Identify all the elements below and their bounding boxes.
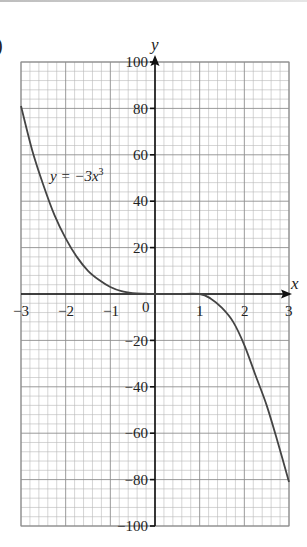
y-tick-label: −20 (125, 333, 148, 349)
y-tick-label: 60 (133, 147, 148, 163)
y-axis-name: y (149, 35, 159, 54)
x-tick-label: 3 (285, 303, 293, 319)
x-tick-label: 2 (241, 303, 249, 319)
y-tick-label: −60 (125, 425, 148, 441)
x-axis-name: x (290, 274, 299, 293)
y-tick-label: −40 (125, 379, 148, 395)
y-tick-label: −80 (125, 472, 148, 488)
x-tick-label: −3 (13, 303, 29, 319)
y-tick-label: 80 (133, 101, 148, 117)
x-tick-label: −2 (58, 303, 74, 319)
y-tick-label: 40 (133, 193, 148, 209)
x-tick-label: −1 (103, 303, 119, 319)
y-tick-label: 20 (133, 240, 148, 256)
x-tick-label: 1 (196, 303, 204, 319)
curve-equation-exponent: 3 (99, 166, 104, 177)
x-tick-label-zero: 0 (142, 299, 150, 315)
curve-equation-label: y = −3x3 (48, 166, 104, 184)
cubic-graph: y x −3 −2 −1 0 1 2 3 100 80 60 40 20 −20… (0, 0, 307, 547)
y-tick-label: 100 (126, 54, 149, 70)
y-tick-label: −100 (117, 518, 148, 534)
curve-equation-main: y = −3x (48, 168, 99, 184)
